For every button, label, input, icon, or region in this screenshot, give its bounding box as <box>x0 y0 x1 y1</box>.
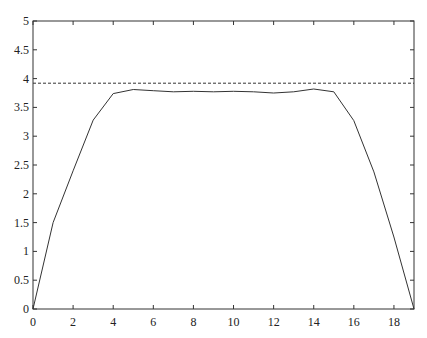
y-tick-label: 2 <box>23 187 29 201</box>
y-tick-label: 5 <box>23 14 29 28</box>
line-chart: 024681012141618 00.511.522.533.544.55 <box>0 0 427 338</box>
y-tick-label: 3.5 <box>14 100 29 114</box>
y-tick-label: 0.5 <box>14 273 29 287</box>
profile-line <box>33 89 414 309</box>
x-tick-label: 4 <box>110 315 116 329</box>
y-tick-label: 2.5 <box>14 158 29 172</box>
x-tick-label: 0 <box>30 315 36 329</box>
y-axis-ticks: 00.511.522.533.544.55 <box>14 14 414 316</box>
y-tick-label: 4 <box>23 72 29 86</box>
x-tick-label: 8 <box>190 315 196 329</box>
plot-frame <box>33 21 414 309</box>
y-tick-label: 1.5 <box>14 216 29 230</box>
data-series <box>33 83 414 309</box>
y-tick-label: 1 <box>23 244 29 258</box>
x-tick-label: 14 <box>308 315 320 329</box>
y-tick-label: 4.5 <box>14 43 29 57</box>
x-tick-label: 6 <box>150 315 156 329</box>
x-tick-label: 18 <box>388 315 400 329</box>
y-tick-label: 0 <box>23 302 29 316</box>
x-tick-label: 2 <box>70 315 76 329</box>
x-tick-label: 12 <box>268 315 280 329</box>
x-tick-label: 16 <box>348 315 360 329</box>
y-tick-label: 3 <box>23 129 29 143</box>
x-tick-label: 10 <box>228 315 240 329</box>
x-axis-ticks: 024681012141618 <box>30 21 400 329</box>
